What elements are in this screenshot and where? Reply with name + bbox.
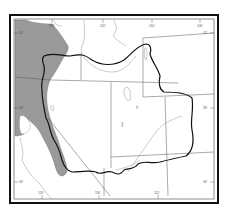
tick-label-bottom-1: 116° <box>95 191 102 195</box>
tick-label-bottom-2: 112° <box>154 191 161 195</box>
tick-label-right-1: 38° <box>203 106 208 110</box>
tick-label-top-3: 106° <box>197 24 204 28</box>
tick-label-right-0: 42° <box>203 31 208 35</box>
map: 118° 114° 110° 106° 120° 116° 112° 42° 3… <box>0 0 231 216</box>
tick-label-top-0: 118° <box>49 24 56 28</box>
tick-label-left-1: 38° <box>19 106 24 110</box>
tick-label-bottom-0: 120° <box>38 191 45 195</box>
tick-label-right-2: 34° <box>203 180 208 184</box>
tick-label-left-0: 42° <box>19 31 24 35</box>
tick-label-top-1: 114° <box>100 24 107 28</box>
tick-label-top-2: 110° <box>149 24 156 28</box>
tick-label-left-2: 34° <box>19 180 24 184</box>
